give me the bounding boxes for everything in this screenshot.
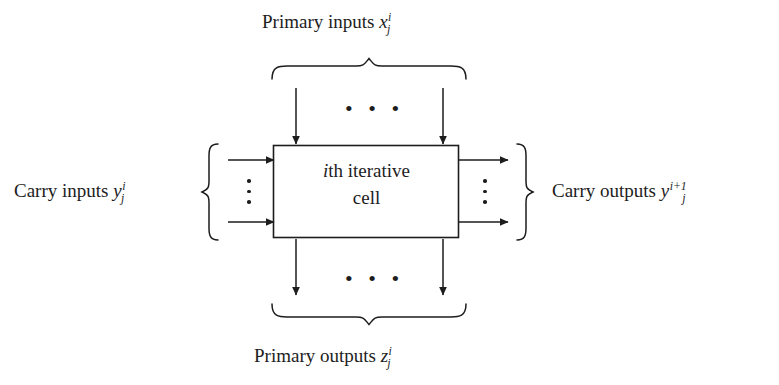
primary-outputs-brace [272,304,466,325]
carry-inputs-label: Carry inputs yij [14,181,124,202]
carry-inputs-superscript: i [122,180,125,193]
primary-outputs-superscript: i [389,345,392,358]
ellipsis-dot [247,200,251,204]
ellipsis-dot [483,200,487,204]
ellipsis-dot [247,179,251,183]
ellipsis-dot [247,190,251,194]
carry-outputs-brace [517,144,533,240]
carry-outputs-subscript: j [682,192,685,205]
carry-outputs-label: Carry outputs yi+1j [552,181,686,202]
ellipsis-dot [483,190,487,194]
primary-inputs-text: Primary inputs [262,11,379,32]
primary-inputs-brace [272,59,466,80]
cell-line1-text: th iterative [328,160,410,181]
primary-inputs-label: Primary inputs xij [262,12,390,33]
iterative-cell-diagram: ith iterative cell Primary inputs xij Pr… [0,0,779,385]
carry-inputs-brace [202,144,218,240]
primary-inputs-subscript: j [387,23,390,36]
primary-inputs-superscript: i [388,11,391,24]
carry-inputs-subscript: j [121,192,124,205]
carry-outputs-text: Carry outputs [552,180,661,201]
primary-outputs-label: Primary outputs zij [254,346,391,367]
primary-outputs-subscript: j [387,357,390,370]
top-horizontal-ellipsis-icon: • • • [345,96,404,122]
cell-line2-text: cell [353,187,380,208]
left-vertical-ellipsis-icon [247,179,251,204]
primary-outputs-text: Primary outputs [254,345,381,366]
carry-inputs-text: Carry inputs [14,180,113,201]
bottom-horizontal-ellipsis-icon: • • • [345,266,404,292]
carry-outputs-symbol: y [661,180,669,201]
right-vertical-ellipsis-icon [483,179,487,204]
carry-outputs-superscript: i+1 [670,180,687,193]
iterative-cell-label: ith iterative cell [274,158,459,212]
ellipsis-dot [483,179,487,183]
